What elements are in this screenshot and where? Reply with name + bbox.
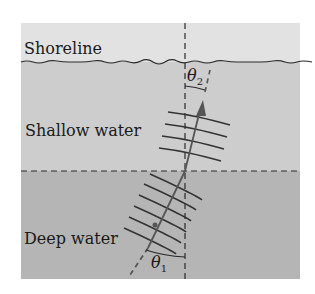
- shallow-water-region: [21, 62, 300, 171]
- wave-refraction-diagram: Shoreline Shallow water Deep water θ2 θ1: [0, 0, 315, 294]
- ray-point: [153, 223, 158, 228]
- shoreline-label: Shoreline: [24, 39, 102, 58]
- deep-water-label: Deep water: [24, 229, 118, 248]
- shallow-water-label: Shallow water: [25, 121, 142, 140]
